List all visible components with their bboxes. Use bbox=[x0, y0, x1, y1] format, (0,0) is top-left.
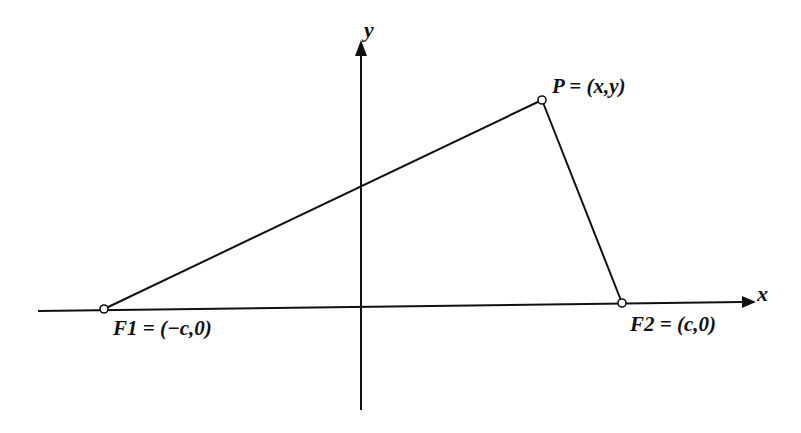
point-p-marker bbox=[538, 96, 546, 104]
point-f2-label: F2 = (c,0) bbox=[630, 314, 716, 335]
point-f1-label: F1 = (−c,0) bbox=[113, 318, 212, 339]
x-axis-label: x bbox=[757, 283, 768, 305]
point-f1-marker bbox=[100, 305, 108, 313]
point-p-label: P = (x,y) bbox=[552, 76, 626, 97]
y-axis-label: y bbox=[364, 19, 374, 41]
x-axis-arrow-icon bbox=[742, 296, 756, 308]
point-f2-marker bbox=[618, 299, 626, 307]
x-axis bbox=[38, 296, 756, 311]
segment-f1-p bbox=[104, 100, 542, 309]
y-axis bbox=[355, 40, 367, 410]
y-axis-arrow-icon bbox=[355, 40, 367, 56]
focal-triangle-diagram bbox=[0, 0, 801, 433]
segment-p-f2 bbox=[542, 100, 622, 303]
